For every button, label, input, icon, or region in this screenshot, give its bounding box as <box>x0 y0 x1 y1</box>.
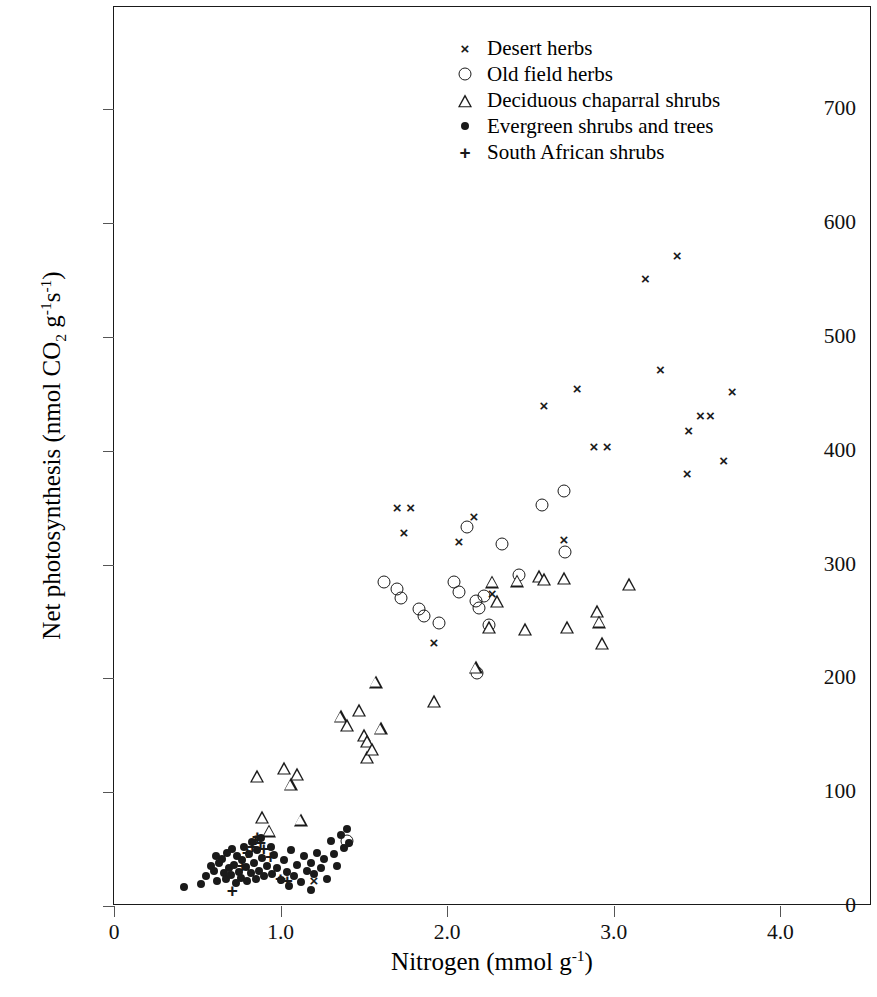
data-point: × <box>539 397 548 415</box>
y-tick-label: 300 <box>824 554 856 576</box>
data-point <box>294 813 308 826</box>
legend-label: Evergreen shrubs and trees <box>481 114 713 139</box>
data-point <box>297 878 305 886</box>
data-point: × <box>429 634 438 652</box>
legend-label: Deciduous chaparral shrubs <box>481 88 720 113</box>
y-tick-mark <box>103 451 114 452</box>
data-point <box>352 704 366 717</box>
x-tick-mark <box>447 906 448 917</box>
triangle-icon <box>449 87 481 113</box>
y-exp-1: -1 <box>37 302 54 315</box>
data-point <box>622 577 636 590</box>
data-point <box>293 861 301 869</box>
data-point <box>320 855 328 863</box>
y-exp-2: -1 <box>37 280 54 293</box>
scatter-plot-figure: Net photosynthesis (nmol CO2 g-1s-1) Nit… <box>0 0 877 997</box>
data-point <box>277 762 291 775</box>
y-tick-mark <box>103 109 114 110</box>
plot-area: 0100200300400500600700 01.02.03.04.0 ×××… <box>113 6 871 905</box>
data-point <box>317 864 325 872</box>
x-tick-label: 1.0 <box>241 922 321 944</box>
x-tick-mark <box>780 906 781 917</box>
y-tick-label: 500 <box>824 326 856 348</box>
x-tick-mark <box>614 906 615 917</box>
data-point <box>180 883 188 891</box>
data-point <box>210 867 218 875</box>
data-point <box>432 616 445 629</box>
co2-subscript: 2 <box>52 334 69 342</box>
y-axis-title-text: Net photosynthesis (nmol CO2 g-1s-1) <box>38 271 65 639</box>
cross-icon: × <box>449 35 481 61</box>
y-tick-mark <box>103 906 114 907</box>
legend-item-3: Evergreen shrubs and trees <box>449 113 720 139</box>
legend: ×Desert herbsOld field herbsDeciduous ch… <box>449 35 720 165</box>
x-tick-label: 0 <box>74 922 154 944</box>
data-point <box>452 585 465 598</box>
data-point <box>482 621 496 634</box>
y-axis-title: Net photosynthesis (nmol CO2 g-1s-1) <box>38 6 78 905</box>
data-point <box>330 850 338 858</box>
x-tick-label: 3.0 <box>574 922 654 944</box>
data-point: × <box>673 247 682 265</box>
data-point <box>243 877 251 885</box>
x-axis-title-text: Nitrogen (mmol g-1) <box>391 948 593 975</box>
data-point: × <box>406 499 415 517</box>
data-point <box>307 886 315 894</box>
data-point <box>290 767 304 780</box>
data-point: × <box>728 383 737 401</box>
data-point <box>365 742 379 755</box>
y-tick-label: 400 <box>824 440 856 462</box>
data-point <box>337 831 345 839</box>
data-point <box>280 856 288 864</box>
x-tick-mark <box>114 906 115 917</box>
data-point <box>537 573 551 586</box>
data-point <box>536 499 549 512</box>
data-point <box>333 862 341 870</box>
data-point: × <box>393 499 402 517</box>
x-tick-mark <box>281 906 282 917</box>
data-point <box>323 875 331 883</box>
legend-label: Old field herbs <box>481 62 613 87</box>
data-point <box>227 871 235 879</box>
data-point <box>377 575 390 588</box>
data-point: × <box>603 438 612 456</box>
data-point <box>327 837 335 845</box>
y-tick-mark <box>103 792 114 793</box>
data-point: + <box>265 847 276 867</box>
data-point <box>560 621 574 634</box>
data-point <box>260 872 268 880</box>
y-tick-mark <box>103 223 114 224</box>
data-point <box>340 719 354 732</box>
legend-item-2: Deciduous chaparral shrubs <box>449 87 720 113</box>
data-point <box>427 695 441 708</box>
data-point <box>374 722 388 735</box>
data-point <box>252 875 260 883</box>
data-point: × <box>454 533 463 551</box>
plus-icon: + <box>449 139 481 165</box>
data-point <box>307 859 315 867</box>
data-point <box>496 538 509 551</box>
data-point <box>461 521 474 534</box>
data-point: × <box>399 524 408 542</box>
data-point <box>510 574 524 587</box>
data-point <box>250 770 264 783</box>
data-point: × <box>683 465 692 483</box>
y-tick-label: 600 <box>824 212 856 234</box>
data-point <box>287 846 295 854</box>
data-point <box>472 601 485 614</box>
data-point <box>345 839 353 847</box>
legend-label: Desert herbs <box>481 36 593 61</box>
data-point <box>202 872 210 880</box>
data-point: + <box>227 881 238 901</box>
data-point <box>343 825 351 833</box>
y-tick-mark <box>103 565 114 566</box>
data-point <box>197 880 205 888</box>
dot-icon <box>449 113 481 139</box>
data-point: × <box>696 407 705 425</box>
data-point <box>485 575 499 588</box>
legend-item-0: ×Desert herbs <box>449 35 720 61</box>
x-axis-title: Nitrogen (mmol g-1) <box>113 948 871 976</box>
data-point <box>557 484 570 497</box>
data-point: × <box>573 380 582 398</box>
legend-label: South African shrubs <box>481 140 664 165</box>
